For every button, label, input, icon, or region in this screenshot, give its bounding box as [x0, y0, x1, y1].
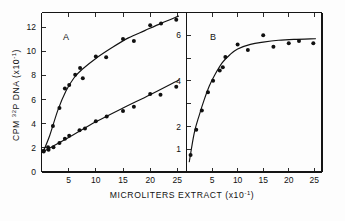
panel-a-data-point: [94, 119, 98, 123]
x-axis-title-text: MICROLITERS EXTRACT (x10-1): [110, 190, 254, 200]
panel-a-data-point: [73, 73, 77, 77]
panel-b-data-point: [246, 48, 250, 52]
panel-b-data-point: [271, 45, 275, 49]
panel-a-data-point: [81, 76, 85, 80]
panel-a-data-point: [42, 149, 46, 153]
axes-frame: [42, 13, 323, 173]
panel-b-data-point: [261, 33, 265, 37]
panel-a-y-tick-label: 0: [31, 167, 36, 177]
panel-a-data-point: [159, 21, 163, 25]
panel-b-x-tick-label: 15: [258, 175, 268, 185]
panel-a-data-point: [63, 87, 67, 91]
panel-a-data-point: [121, 37, 125, 41]
y-axis-title-text: CPM 32P DNA (x10-1): [11, 49, 21, 141]
panel-a-data-point: [121, 109, 125, 113]
panel-a-data-point: [51, 124, 55, 128]
panel-b-fit-curve-0: [189, 39, 315, 162]
panel-a-y-tick-label: 6: [31, 95, 36, 105]
panel-b-x-tick-label: 5: [210, 175, 215, 185]
panel-a-y-tick-label: 10: [27, 46, 37, 56]
panel-b-x-tick-label: 10: [233, 175, 243, 185]
panel-a-data-point: [51, 145, 55, 149]
panel-a-x-tick-label: 10: [91, 175, 101, 185]
panel-b-data-point: [200, 108, 204, 112]
panel-a-x-tick-label: 25: [173, 175, 183, 185]
panel-a-data-point: [57, 106, 61, 110]
panel-a-fit-curve-1: [43, 80, 178, 151]
panel-b-data-point: [218, 69, 222, 73]
panel-b-data-point: [211, 79, 215, 83]
panel-a-y-tick-label: 4: [31, 119, 36, 129]
panel-a-x-tick-label: 20: [145, 175, 155, 185]
panel-a-data-point: [148, 23, 152, 27]
panel-b-y-tick-label: 1: [176, 144, 181, 154]
panel-b-data-point: [221, 65, 225, 69]
panel-a-data-point: [159, 93, 163, 97]
panel-a-data-point: [83, 127, 87, 131]
panel-b-data-point: [194, 128, 198, 132]
panel-a-data-point: [94, 55, 98, 59]
panel-b-x-tick-label: 25: [310, 175, 320, 185]
figure-container: 0246810125101520251246510152025ABMICROLI…: [0, 0, 345, 221]
panel-a-x-tick-label: 15: [118, 175, 128, 185]
panel-b-y-tick-label: 4: [176, 76, 181, 86]
panel-a-data-point: [63, 137, 67, 141]
panel-a-data-point: [57, 141, 61, 145]
panel-a-data-point: [132, 39, 136, 43]
panel-a-data-point: [67, 83, 71, 87]
panel-b: [189, 33, 316, 161]
panel-a-data-point: [47, 148, 51, 152]
panel-b-data-point: [297, 39, 301, 43]
panel-a-data-point: [132, 105, 136, 109]
panel-a-data-point: [78, 66, 82, 70]
panel-b-data-point: [287, 41, 291, 45]
panel-b-data-point: [311, 41, 315, 45]
panel-b-data-point: [189, 153, 193, 157]
panel-a-y-tick-label: 2: [31, 143, 36, 153]
panel-a-data-point: [148, 92, 152, 96]
panel-a-y-tick-label: 12: [27, 22, 37, 32]
panel-b-data-point: [206, 90, 210, 94]
panel-a-letter-text: A: [63, 32, 69, 42]
panel-a-data-point: [67, 134, 71, 138]
panel-a-x-tick-label: 5: [66, 175, 71, 185]
panel-b-y-tick-label: 2: [176, 122, 181, 132]
panel-a-y-tick-label: 8: [31, 70, 36, 80]
panel-b-letter-text: B: [210, 32, 216, 42]
panel-a-data-point: [78, 128, 82, 132]
plot-svg: 0246810125101520251246510152025ABMICROLI…: [0, 0, 345, 221]
panel-b-data-point: [236, 42, 240, 46]
panel-b-data-point: [223, 55, 227, 59]
panel-a-data-point: [174, 18, 178, 22]
panel-a-data-point: [105, 114, 109, 118]
panel-b-x-tick-label: 20: [284, 175, 294, 185]
panel-b-y-tick-label: 6: [176, 30, 181, 40]
panel-a-data-point: [104, 55, 108, 59]
